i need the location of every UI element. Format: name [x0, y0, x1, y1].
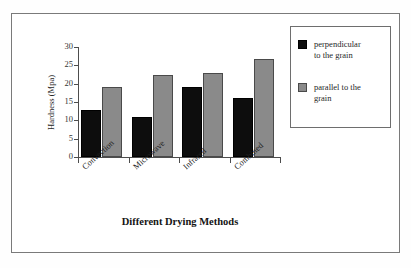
bar-group: [230, 47, 281, 157]
legend: perpendicularto the grain parallel to th…: [290, 26, 391, 128]
bar-group: [78, 47, 129, 157]
legend-label-parallel: parallel to thegrain: [314, 82, 361, 103]
legend-item-perpendicular: perpendicularto the grain: [298, 39, 388, 60]
x-tick-mark: [129, 158, 130, 163]
x-tick-mark: [280, 158, 281, 163]
x-axis-title: Different Drying Methods: [78, 216, 282, 227]
chart-figure: Hardness (Mpa) 302520151050 ConvectionMi…: [0, 0, 411, 268]
y-tick-label: 10: [65, 114, 74, 125]
bar: [203, 73, 223, 157]
x-tick-mark: [230, 158, 231, 163]
y-tick-label: 25: [65, 59, 74, 70]
legend-swatch-icon-perpendicular: [298, 40, 307, 49]
y-axis-title: Hardness (Mpa): [44, 47, 58, 158]
y-tick-label: 20: [65, 78, 74, 89]
bar-group: [179, 47, 230, 157]
legend-item-parallel: parallel to thegrain: [298, 82, 388, 103]
x-tick-mark: [179, 158, 180, 163]
y-tick-label: 30: [65, 41, 74, 52]
y-tick-label: 5: [69, 133, 73, 144]
y-tick-label: 0: [69, 151, 73, 162]
x-tick-mark: [78, 158, 79, 163]
legend-swatch-icon-parallel: [298, 83, 307, 92]
y-tick-label: 15: [65, 96, 74, 107]
bar-group: [129, 47, 180, 157]
legend-label-perpendicular: perpendicularto the grain: [314, 39, 361, 60]
